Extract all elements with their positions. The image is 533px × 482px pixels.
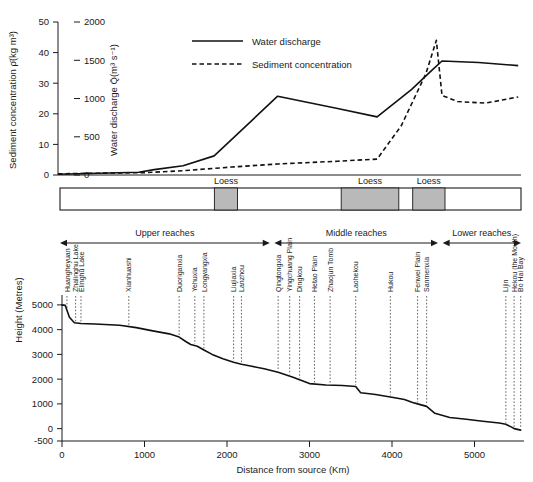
- bottom-y-ticks: -500010002000300040005000: [32, 299, 62, 446]
- loess-label: Loess: [417, 176, 442, 186]
- site-label: Lanzhou: [238, 265, 245, 292]
- site-label: Bo Hai Bay: [517, 256, 525, 292]
- top-right-axis-title: Water discharge Q̄(m³ s⁻¹): [108, 44, 119, 156]
- bottom-x-tick-label: 5000: [464, 449, 485, 460]
- bottom-y-tick-label: -500: [34, 435, 53, 446]
- site-label: Hetao Plain: [311, 256, 318, 292]
- site-label: Fenwei Plain: [414, 252, 421, 292]
- top-chart: Sediment concentration ρ̄(kg m³) 0 10 20…: [7, 16, 521, 180]
- bottom-y-tick-label: 0: [48, 423, 53, 434]
- top-right-ticks: 0 500 1000 1500 2000: [74, 16, 105, 180]
- site-label: Liujiaxia: [230, 267, 238, 292]
- top-right-tick-1500: 1500: [84, 55, 105, 66]
- bottom-y-tick-label: 1000: [32, 398, 53, 409]
- top-left-ticks: 0 10 20 30 40 50: [38, 16, 58, 180]
- top-legend: Water discharge Sediment concentration: [192, 36, 352, 70]
- bottom-x-tick-label: 3000: [299, 449, 320, 460]
- water-discharge-curve: [58, 61, 518, 174]
- bottom-y-tick-label: 2000: [32, 374, 53, 385]
- site-label: Zhaojun Tomb: [327, 248, 335, 292]
- site-label: Sanmenxia: [423, 257, 430, 292]
- bottom-y-tick-label: 3000: [32, 349, 53, 360]
- top-left-tick-30: 30: [38, 78, 49, 89]
- legend-label-sediment-concentration: Sediment concentration: [252, 59, 352, 70]
- figure-root: Sediment concentration ρ̄(kg m³) 0 10 20…: [0, 0, 533, 482]
- bottom-chart: Height (Metres) -50001000200030004000500…: [13, 234, 525, 475]
- site-label: Hukou: [387, 272, 394, 292]
- bottom-y-axis-title: Height (Metres): [13, 277, 24, 342]
- site-label: Lijin: [502, 279, 510, 292]
- site-label: Dingkou: [296, 266, 304, 292]
- bottom-y-tick-label: 4000: [32, 324, 53, 335]
- top-left-tick-50: 50: [38, 16, 49, 27]
- legend-label-water-discharge: Water discharge: [252, 36, 321, 47]
- reach-label: Lower reaches: [452, 228, 512, 238]
- top-left-tick-0: 0: [44, 169, 49, 180]
- site-label: Huangheyuan: [64, 248, 72, 292]
- bottom-x-tick-label: 0: [59, 449, 64, 460]
- reach-arrow-head: [263, 240, 270, 246]
- top-right-tick-500: 500: [84, 131, 100, 142]
- site-label: Longyangxia: [201, 252, 209, 292]
- elevation-profile-curve: [62, 305, 521, 430]
- bottom-x-axis-title: Distance from source (Km): [237, 464, 350, 475]
- reach-arrow-head: [274, 240, 281, 246]
- site-label: Laohekou: [352, 261, 359, 292]
- site-label: Qingtongxia: [275, 255, 283, 292]
- bottom-x-ticks: 010002000300040005000: [59, 441, 485, 460]
- loess-band: [413, 188, 445, 210]
- reach-label: Middle reaches: [326, 228, 388, 238]
- loess-label-group: LoessLoessLoess: [214, 176, 441, 186]
- bottom-y-tick-label: 5000: [32, 299, 53, 310]
- site-label: Duoriganxia: [176, 255, 184, 292]
- loess-band: [214, 188, 237, 210]
- top-left-tick-40: 40: [38, 47, 49, 58]
- bottom-x-tick-label: 4000: [381, 449, 402, 460]
- reach-label: Upper reaches: [135, 228, 195, 238]
- site-label: Yingchuang Plain: [286, 238, 294, 292]
- site-label: Elinghu Lake: [78, 251, 86, 292]
- loess-bar-outline: [60, 188, 521, 210]
- reach-arrow-head: [443, 240, 450, 246]
- reach-arrow-head: [60, 240, 67, 246]
- top-right-tick-2000: 2000: [84, 16, 105, 27]
- loess-label: Loess: [214, 176, 239, 186]
- loess-bar: LoessLoessLoess: [60, 176, 521, 210]
- site-label: Yehuxia: [191, 267, 198, 292]
- figure-svg: Sediment concentration ρ̄(kg m³) 0 10 20…: [0, 0, 533, 482]
- reach-arrow-head: [431, 240, 438, 246]
- bottom-x-tick-label: 2000: [216, 449, 237, 460]
- top-left-tick-10: 10: [38, 139, 49, 150]
- site-label: Xianhuashi: [125, 257, 132, 292]
- loess-band: [341, 188, 399, 210]
- loess-label: Loess: [358, 176, 383, 186]
- site-leader-lines: [67, 296, 521, 429]
- top-left-tick-20: 20: [38, 108, 49, 119]
- top-right-tick-1000: 1000: [84, 93, 105, 104]
- bottom-x-tick-label: 1000: [134, 449, 155, 460]
- top-left-axis-title: Sediment concentration ρ̄(kg m³): [7, 31, 18, 169]
